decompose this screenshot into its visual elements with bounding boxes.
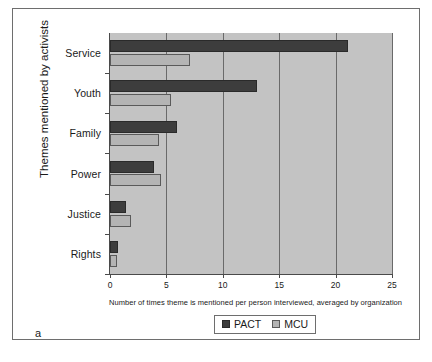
y-axis-category-label: Youth [74, 87, 101, 99]
x-axis-title: Number of times theme is mentioned per p… [109, 298, 391, 307]
legend-label-pact: PACT [234, 318, 261, 330]
bar-mcu-service [110, 54, 190, 66]
x-axis-tick [279, 274, 280, 278]
x-gridline [392, 33, 393, 274]
bar-pact-family [110, 121, 177, 133]
legend-label-mcu: MCU [284, 318, 308, 330]
bar-pact-justice [110, 201, 126, 213]
x-axis-tick-label: 5 [164, 280, 169, 290]
chart-category-row: Justice [110, 194, 392, 234]
chart-legend: PACT MCU [214, 315, 316, 334]
legend-swatch-pact-icon [222, 320, 230, 328]
bar-pact-power [110, 161, 154, 173]
chart-category-row: Youth [110, 73, 392, 113]
x-axis-tick [392, 274, 393, 278]
x-axis-tick-label: 20 [331, 280, 340, 290]
x-axis-tick-label: 0 [108, 280, 113, 290]
bar-mcu-family [110, 134, 159, 146]
plot-area: 0510152025ServiceYouthFamilyPowerJustice… [109, 33, 392, 275]
y-axis-tick [105, 274, 110, 275]
x-axis-tick [166, 274, 167, 278]
figure-container: Themes mentioned by activists 0510152025… [0, 0, 432, 362]
panel-label: a [35, 327, 41, 339]
y-axis-category-label: Rights [71, 248, 101, 260]
legend-swatch-mcu-icon [272, 320, 280, 328]
x-axis-tick-label: 10 [218, 280, 227, 290]
x-axis-tick [336, 274, 337, 278]
chart-category-row: Service [110, 33, 392, 73]
chart-category-row: Rights [110, 234, 392, 274]
x-axis-tick-label: 25 [387, 280, 396, 290]
bar-pact-service [110, 40, 348, 52]
chart-category-row: Family [110, 113, 392, 153]
y-axis-category-label: Justice [68, 208, 101, 220]
bar-mcu-justice [110, 215, 131, 227]
figure-panel-frame: Themes mentioned by activists 0510152025… [12, 8, 420, 340]
y-axis-title: Themes mentioned by activists [38, 4, 50, 194]
y-axis-category-label: Service [65, 47, 101, 59]
bar-mcu-youth [110, 94, 171, 106]
x-axis-tick-label: 15 [274, 280, 283, 290]
legend-item-pact: PACT [222, 318, 261, 330]
x-axis-tick [223, 274, 224, 278]
bar-pact-youth [110, 80, 257, 92]
bar-mcu-power [110, 174, 161, 186]
bar-pact-rights [110, 241, 118, 253]
chart-category-row: Power [110, 154, 392, 194]
legend-item-mcu: MCU [272, 318, 308, 330]
y-axis-category-label: Power [71, 168, 101, 180]
x-axis-tick [110, 274, 111, 278]
bar-mcu-rights [110, 255, 117, 267]
y-axis-category-label: Family [69, 127, 101, 139]
